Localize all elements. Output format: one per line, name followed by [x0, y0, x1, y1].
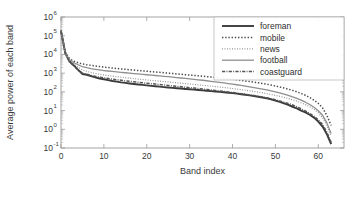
svg-text:40: 40: [228, 151, 238, 161]
svg-text:3: 3: [54, 66, 58, 72]
chart-figure: 10-1100101102103104105106 0102030405060 …: [0, 0, 364, 197]
svg-text:10: 10: [44, 31, 54, 41]
chart-canvas: 10-1100101102103104105106 0102030405060 …: [0, 0, 364, 197]
legend-label-coastguard[interactable]: coastguard: [260, 67, 302, 77]
svg-text:30: 30: [185, 151, 195, 161]
svg-text:6: 6: [54, 10, 58, 16]
legend-label-football[interactable]: football: [260, 55, 288, 65]
svg-text:0: 0: [59, 151, 64, 161]
svg-text:-1: -1: [54, 141, 60, 147]
svg-text:10: 10: [44, 68, 54, 78]
svg-text:0: 0: [54, 122, 58, 128]
x-axis-tick-labels: 0102030405060: [59, 151, 324, 161]
y-axis-tick-labels: 10-1100101102103104105106: [44, 10, 60, 154]
chart-legend[interactable]: foremanmobilenewsfootballcoastguard: [214, 17, 344, 80]
svg-text:10: 10: [44, 49, 54, 59]
svg-text:10: 10: [99, 151, 109, 161]
legend-label-news[interactable]: news: [260, 44, 280, 54]
svg-text:50: 50: [271, 151, 281, 161]
y-axis-title: Average power of each band: [5, 25, 15, 140]
legend-label-mobile[interactable]: mobile: [260, 33, 285, 43]
svg-text:5: 5: [54, 28, 58, 34]
x-axis-title: Band index: [180, 166, 226, 176]
svg-text:10: 10: [44, 87, 54, 97]
svg-text:10: 10: [44, 12, 54, 22]
svg-text:10: 10: [44, 124, 54, 134]
svg-text:10: 10: [44, 106, 54, 116]
svg-text:20: 20: [142, 151, 152, 161]
svg-text:60: 60: [314, 151, 324, 161]
svg-text:10: 10: [44, 143, 54, 153]
legend-label-foreman[interactable]: foreman: [260, 21, 291, 31]
svg-text:2: 2: [54, 84, 58, 90]
svg-text:4: 4: [54, 47, 58, 53]
svg-text:1: 1: [54, 103, 58, 109]
